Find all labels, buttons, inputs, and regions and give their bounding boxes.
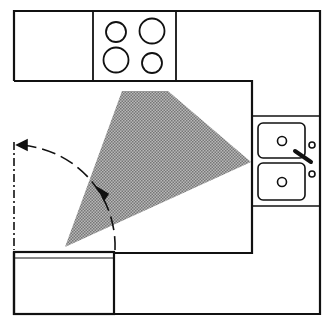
burner-icon [106,22,126,42]
work-triangle [65,91,251,247]
burner-icon [104,48,129,73]
kitchen-floor-plan [0,0,331,328]
tap-icon [309,142,315,148]
tap-icon [309,171,315,177]
drain-icon [278,137,287,146]
faucet-icon [295,151,311,162]
double-sink [252,116,320,206]
drain-icon [278,178,287,187]
burner-icon [140,19,165,44]
cooktop [93,11,176,81]
burner-icon [142,53,162,73]
